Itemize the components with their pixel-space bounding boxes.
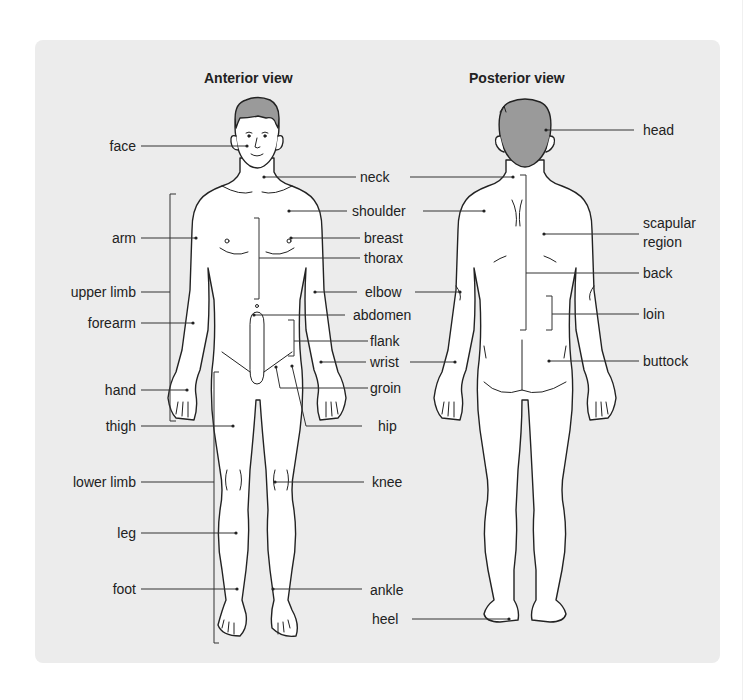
label-breast: breast xyxy=(364,230,403,246)
anterior-figure xyxy=(168,98,346,637)
label-foot: foot xyxy=(113,581,136,597)
label-upper-limb: upper limb xyxy=(71,284,136,300)
label-thigh: thigh xyxy=(106,418,136,434)
anterior-view-title: Anterior view xyxy=(204,70,293,86)
label-knee: knee xyxy=(372,474,402,490)
label-hip: hip xyxy=(378,418,397,434)
label-hand: hand xyxy=(105,382,136,398)
label-shoulder: shoulder xyxy=(352,203,406,219)
label-scapular-region-line2: region xyxy=(643,234,682,250)
label-arm: arm xyxy=(112,230,136,246)
label-back: back xyxy=(643,265,673,281)
label-abdomen: abdomen xyxy=(353,307,411,323)
label-leg: leg xyxy=(117,525,136,541)
label-neck: neck xyxy=(360,169,390,185)
label-face: face xyxy=(110,138,136,154)
label-heel: heel xyxy=(372,611,398,627)
label-thorax: thorax xyxy=(364,250,403,266)
label-groin: groin xyxy=(370,380,401,396)
label-head: head xyxy=(643,122,674,138)
label-lower-limb: lower limb xyxy=(73,474,136,490)
label-forearm: forearm xyxy=(88,315,136,331)
label-elbow: elbow xyxy=(365,284,402,300)
label-buttock: buttock xyxy=(643,353,688,369)
label-wrist: wrist xyxy=(370,354,399,370)
label-scapular-region-line1: scapular xyxy=(643,215,696,231)
label-ankle: ankle xyxy=(370,582,403,598)
label-flank: flank xyxy=(370,333,400,349)
posterior-view-title: Posterior view xyxy=(469,70,565,86)
label-loin: loin xyxy=(643,306,665,322)
